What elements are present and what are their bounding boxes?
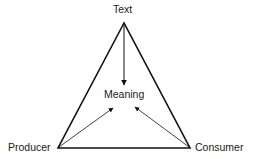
node-consumer-label: Consumer xyxy=(195,142,243,153)
arrow-producer-to-meaning xyxy=(59,108,113,147)
arrow-consumer-to-meaning xyxy=(135,107,189,147)
node-text-label: Text xyxy=(113,4,132,15)
node-meaning-label: Meaning xyxy=(104,89,144,100)
node-producer-label: Producer xyxy=(8,142,51,153)
triangle-diagram xyxy=(0,0,254,159)
